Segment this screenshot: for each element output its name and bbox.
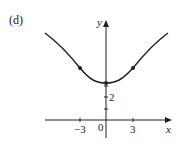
x-axis-label: x bbox=[166, 124, 171, 135]
inflection-point-right bbox=[131, 66, 135, 70]
y-tick-label-2: 2 bbox=[109, 92, 115, 103]
y-axis-arrow-icon bbox=[103, 20, 109, 27]
x-tick-label-pos3: 3 bbox=[130, 124, 136, 135]
x-tick-label-zero: 0 bbox=[98, 122, 104, 133]
y-intercept-point bbox=[104, 81, 108, 85]
inflection-point-left bbox=[78, 66, 82, 70]
graph bbox=[0, 0, 180, 149]
x-tick-label-neg3: −3 bbox=[74, 124, 86, 135]
y-axis-label: y bbox=[97, 17, 102, 28]
